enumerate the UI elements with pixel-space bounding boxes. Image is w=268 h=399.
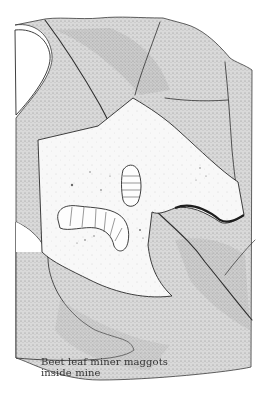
caption-line-1: Beet leaf miner maggots bbox=[41, 356, 168, 367]
leaf-illustration bbox=[0, 0, 268, 399]
maggot-small bbox=[122, 165, 142, 206]
figure-caption: Beet leaf miner maggots inside mine bbox=[41, 356, 168, 378]
caption-line-2: inside mine bbox=[41, 367, 168, 378]
